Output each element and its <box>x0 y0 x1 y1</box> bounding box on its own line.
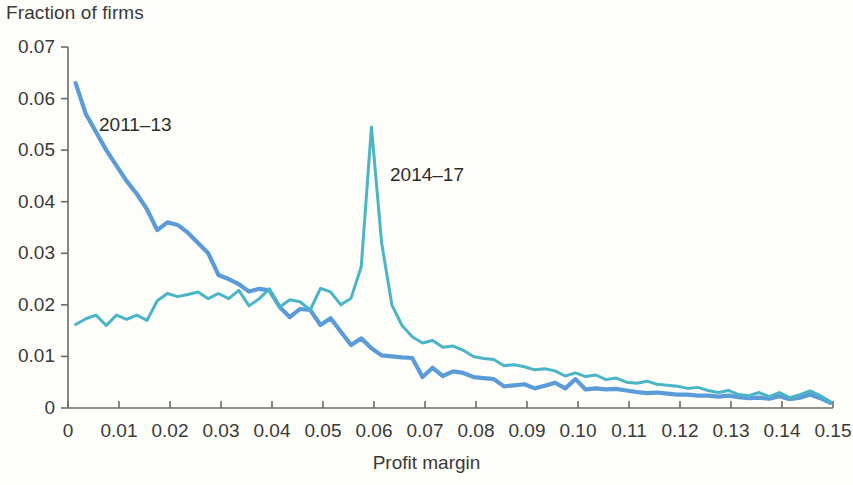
x-axis-tick-label: 0.13 <box>713 420 750 442</box>
series-line-2011-13 <box>76 83 831 403</box>
x-axis-tick-label: 0.07 <box>407 420 444 442</box>
x-axis-ticks <box>68 401 833 408</box>
y-axis-tick-label: 0.03 <box>18 242 55 264</box>
x-axis-tick-label: 0.02 <box>152 420 189 442</box>
y-axis-tick-label: 0.05 <box>18 139 55 161</box>
x-axis-tick-label: 0.15 <box>815 420 852 442</box>
y-axis-tick-label: 0 <box>44 397 55 419</box>
x-axis-tick-label: 0.08 <box>458 420 495 442</box>
data-series-group <box>76 83 831 403</box>
chart-figure: Fraction of firms 00.010.020.030.040.050… <box>0 0 853 485</box>
x-axis-tick-label: 0.11 <box>611 420 647 442</box>
x-axis-tick-label: 0.06 <box>356 420 393 442</box>
y-axis-ticks <box>61 47 68 408</box>
x-axis-tick-label: 0.09 <box>509 420 546 442</box>
x-axis-title: Profit margin <box>0 452 853 474</box>
chart-plot-area <box>0 0 853 485</box>
x-axis-tick-label: 0 <box>63 420 74 442</box>
x-axis-tick-label: 0.03 <box>203 420 240 442</box>
x-axis-tick-label: 0.05 <box>305 420 342 442</box>
y-axis-tick-label: 0.02 <box>18 294 55 316</box>
x-axis-tick-label: 0.01 <box>101 420 138 442</box>
y-axis-tick-label: 0.01 <box>18 345 55 367</box>
x-axis-tick-label: 0.10 <box>560 420 597 442</box>
x-axis-tick-label: 0.14 <box>764 420 801 442</box>
y-axis-tick-label: 0.06 <box>18 88 55 110</box>
x-axis-tick-label: 0.12 <box>662 420 699 442</box>
x-axis-tick-label: 0.04 <box>254 420 291 442</box>
series-label-2011-13: 2011–13 <box>99 114 172 136</box>
series-label-2014-17: 2014–17 <box>390 164 464 186</box>
y-axis-tick-label: 0.07 <box>18 36 55 58</box>
y-axis-tick-label: 0.04 <box>18 191 55 213</box>
